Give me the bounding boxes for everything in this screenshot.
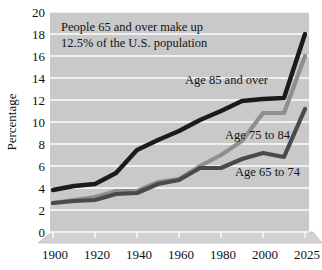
- ytick-label-4: 4: [39, 181, 46, 196]
- xtick-label-1960: 1960: [168, 247, 194, 262]
- xtick-label-1940: 1940: [126, 247, 152, 262]
- ytick-label-14: 14: [32, 71, 46, 86]
- series-label-age-85-and-over: Age 85 and over: [185, 73, 269, 87]
- xtick-label-1920: 1920: [84, 247, 110, 262]
- ytick-label-20: 20: [32, 5, 45, 20]
- xtick-label-1900: 1900: [42, 247, 68, 262]
- xtick-label-2025: 2025: [294, 247, 320, 262]
- xtick-label-2000: 2000: [252, 247, 278, 262]
- series-label-age-75-to-84: Age 75 to 84: [225, 128, 291, 142]
- axis-base-3d: [38, 232, 322, 243]
- ytick-label-12: 12: [32, 93, 45, 108]
- population-note-line-1: People 65 and over make up: [61, 20, 203, 34]
- xtick-label-1980: 1980: [210, 247, 236, 262]
- ytick-label-18: 18: [32, 27, 45, 42]
- ytick-label-16: 16: [32, 49, 46, 64]
- ytick-label-6: 6: [39, 159, 46, 174]
- chart-figure: 0 2 4 6 8 10 12 14 16 18 20 1900 1920 19…: [0, 0, 322, 270]
- ytick-label-8: 8: [39, 137, 46, 152]
- line-chart: 0 2 4 6 8 10 12 14 16 18 20 1900 1920 19…: [0, 0, 322, 270]
- series-label-age-65-to-74: Age 65 to 74: [235, 165, 301, 179]
- ytick-label-2: 2: [39, 203, 46, 218]
- y-axis-title: Percentage: [4, 93, 19, 150]
- ytick-label-10: 10: [32, 115, 45, 130]
- population-note-line-2: 12.5% of the U.S. population: [61, 36, 208, 50]
- ytick-label-0: 0: [39, 225, 46, 240]
